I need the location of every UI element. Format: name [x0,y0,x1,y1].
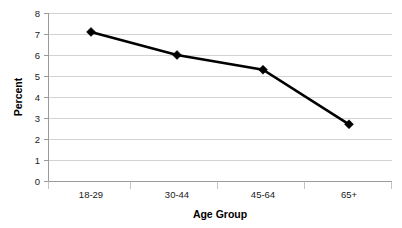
y-tick-label-1: 1 [35,155,40,166]
chart-canvas: 8 7 6 5 4 3 2 1 0 18-29 30-44 45-64 65+ [0,0,402,228]
y-tick-label-0: 0 [35,176,40,187]
y-tick-label-3: 3 [35,113,40,124]
y-tick-label-8: 8 [35,8,40,19]
x-tick-label-18-29: 18-29 [79,189,103,200]
y-tick-label-4: 4 [35,92,40,103]
y-tick-label-6: 6 [35,50,40,61]
x-tick-label-30-44: 30-44 [165,189,189,200]
line-chart: 8 7 6 5 4 3 2 1 0 18-29 30-44 45-64 65+ [0,0,402,228]
y-axis-tick-labels: 8 7 6 5 4 3 2 1 0 [35,8,40,187]
y-axis-title: Percent [12,77,24,116]
y-tick-label-2: 2 [35,134,40,145]
x-tick-label-45-64: 45-64 [251,189,275,200]
y-tick-label-5: 5 [35,71,40,82]
x-axis-title: Age Group [193,208,247,220]
y-tick-label-7: 7 [35,29,40,40]
x-tick-label-65plus: 65+ [341,189,358,200]
